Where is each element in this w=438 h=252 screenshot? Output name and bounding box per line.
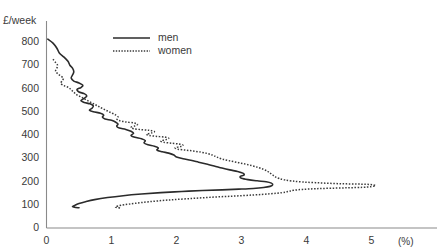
data-series-layer (48, 39, 376, 208)
series-line-women (53, 59, 375, 208)
income-distribution-chart: £/week (%) 0100200300400500600700800 012… (0, 0, 438, 252)
plot-area (0, 0, 438, 252)
axis-lines (47, 21, 438, 228)
legend-label-women: women (158, 44, 192, 56)
series-line-men (48, 39, 273, 208)
legend-label-men: men (158, 31, 178, 43)
legend-swatches (113, 38, 150, 51)
